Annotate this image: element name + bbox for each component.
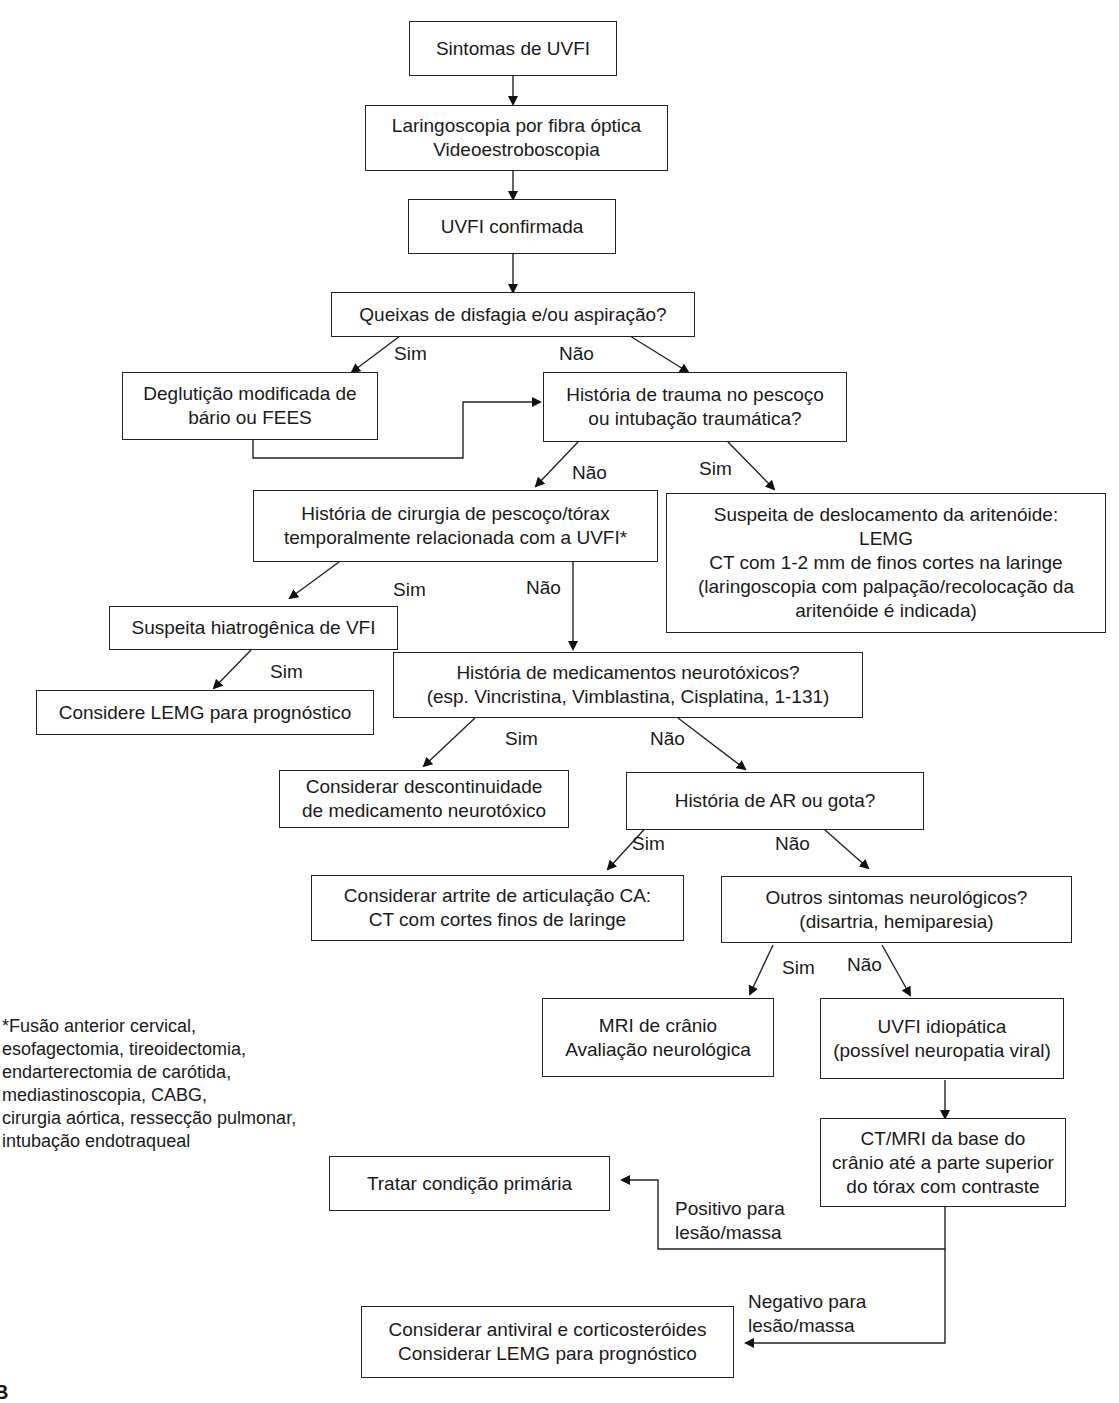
- node-uvfi-confirmada: UVFI confirmada: [408, 199, 616, 254]
- edge-label-sim: Sim: [505, 727, 538, 751]
- node-trauma-pescoco: História de trauma no pescoço ou intubaç…: [543, 372, 847, 442]
- node-ct-mri-base: CT/MRI da base do crânio até a parte sup…: [820, 1118, 1066, 1207]
- node-mri-cranio: MRI de crânio Avaliação neurológica: [542, 998, 774, 1077]
- edge-label-nao: Não: [526, 576, 561, 600]
- node-sintomas-uvfi: Sintomas de UVFI: [409, 21, 617, 76]
- node-ar-gota: História de AR ou gota?: [626, 772, 924, 830]
- node-uvfi-idiopatica: UVFI idiopática (possível neuropatia vir…: [820, 998, 1064, 1079]
- node-laringoscopia: Laringoscopia por fibra óptica Videoestr…: [365, 105, 668, 171]
- edge-label-nao: Não: [559, 342, 594, 366]
- node-cirurgia-pescoco: História de cirurgia de pescoço/tórax te…: [253, 490, 658, 562]
- node-outros-sintomas: Outros sintomas neurológicos? (disartria…: [721, 876, 1072, 943]
- figure-letter: B: [0, 1381, 8, 1403]
- node-tratar-condicao: Tratar condição primária: [329, 1156, 610, 1211]
- node-queixas-disfagia: Queixas de disfagia e/ou aspiração?: [331, 292, 695, 337]
- edge-label-sim: Sim: [394, 342, 427, 366]
- node-antiviral-corticosteroides: Considerar antiviral e corticosteróides …: [361, 1306, 734, 1378]
- node-medicamentos-neurotoxicos: História de medicamentos neurotóxicos? (…: [393, 652, 863, 718]
- node-lemg-prognostico: Considere LEMG para prognóstico: [36, 690, 374, 735]
- edge-label-positivo: Positivo para lesão/massa: [675, 1197, 785, 1245]
- edge-label-sim: Sim: [699, 457, 732, 481]
- node-degluticao: Deglutição modificada de bário ou FEES: [122, 372, 378, 440]
- footnote: *Fusão anterior cervical, esofagectomia,…: [2, 1015, 296, 1153]
- node-artrite-ca: Considerar artrite de articulação CA: CT…: [311, 875, 684, 941]
- edge-label-sim: Sim: [632, 832, 665, 856]
- edge-label-nao: Não: [847, 953, 882, 977]
- edge-label-nao: Não: [775, 832, 810, 856]
- edge-label-nao: Não: [572, 461, 607, 485]
- edge-label-negativo: Negativo para lesão/massa: [748, 1290, 866, 1338]
- edge-label-sim: Sim: [393, 578, 426, 602]
- node-deslocamento-aritenoide: Suspeita de deslocamento da aritenóide: …: [666, 493, 1106, 633]
- edge-label-nao: Não: [650, 727, 685, 751]
- edge-label-sim: Sim: [270, 660, 303, 684]
- node-hiatrogenica: Suspeita hiatrogênica de VFI: [109, 606, 398, 650]
- node-descontinuidade: Considerar descontinuidade de medicament…: [279, 770, 569, 828]
- edge-label-sim: Sim: [782, 956, 815, 980]
